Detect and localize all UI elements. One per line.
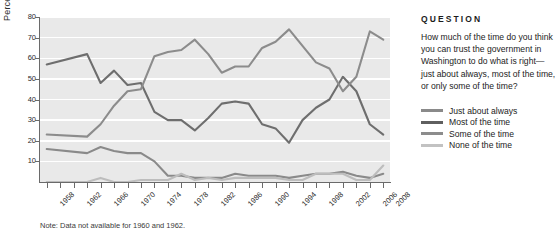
y-tick-label: 80 <box>10 13 36 21</box>
legend-label: None of the time <box>449 140 512 150</box>
x-tick-mark <box>276 183 277 188</box>
x-tick-mark <box>141 183 142 188</box>
x-tick-mark <box>128 183 129 188</box>
x-tick-mark <box>383 183 384 188</box>
y-tick-mark <box>35 100 40 101</box>
legend-label: Just about always <box>449 106 517 116</box>
x-tick-mark <box>114 183 115 188</box>
series-lines <box>40 17 390 182</box>
question-line: you can trust the government in <box>421 43 556 55</box>
chart-note: Note: Data not available for 1960 and 19… <box>40 221 185 230</box>
legend-item[interactable]: None of the time <box>421 140 556 152</box>
x-tick-mark <box>289 183 290 188</box>
x-tick-mark <box>370 183 371 188</box>
question-text: How much of the time do you thinkyou can… <box>421 31 556 92</box>
side-panel: QUESTION How much of the time do you thi… <box>421 14 556 151</box>
x-tick-mark <box>168 183 169 188</box>
y-tick-mark <box>35 17 40 18</box>
y-tick-mark <box>35 38 40 39</box>
question-line: or only some of the time? <box>421 80 556 92</box>
x-tick-mark <box>303 183 304 188</box>
y-tick-mark <box>35 58 40 59</box>
chart-screenshot: Percentage 1020304050607080 Note: Data n… <box>0 0 560 238</box>
series-line <box>47 54 384 143</box>
x-tick-mark <box>60 183 61 188</box>
series-line <box>47 166 384 183</box>
legend-item[interactable]: Most of the time <box>421 117 556 129</box>
legend-label: Most of the time <box>449 117 510 127</box>
y-tick-label: 30 <box>10 116 36 124</box>
question-line: Washington to do what is right— <box>421 55 556 67</box>
x-tick-mark <box>87 183 88 188</box>
legend-swatch-icon <box>421 144 443 147</box>
y-tick-label: 60 <box>10 54 36 62</box>
y-tick-mark <box>35 161 40 162</box>
y-tick-mark <box>35 79 40 80</box>
x-tick-mark <box>47 183 48 188</box>
question-line: just about always, most of the time, <box>421 68 556 80</box>
y-tick-label: 50 <box>10 75 36 83</box>
y-tick-label: 10 <box>10 157 36 165</box>
x-tick-mark <box>208 183 209 188</box>
y-tick-label: 70 <box>10 34 36 42</box>
legend-swatch-icon <box>421 121 443 124</box>
y-tick-mark <box>35 120 40 121</box>
x-tick-mark <box>316 183 317 188</box>
question-line: How much of the time do you think <box>421 31 556 43</box>
x-tick-mark <box>262 183 263 188</box>
x-tick-mark <box>222 183 223 188</box>
x-tick-mark <box>74 183 75 188</box>
legend-item[interactable]: Some of the time <box>421 128 556 140</box>
x-tick-mark <box>356 183 357 188</box>
legend: Just about alwaysMost of the timeSome of… <box>421 105 556 151</box>
x-tick-mark <box>181 183 182 188</box>
x-tick-mark <box>343 183 344 188</box>
legend-item[interactable]: Just about always <box>421 105 556 117</box>
y-tick-mark <box>35 141 40 142</box>
y-tick-label: 40 <box>10 96 36 104</box>
x-tick-mark <box>329 183 330 188</box>
series-line <box>47 29 384 136</box>
y-tick-label: 20 <box>10 137 36 145</box>
x-axis-line <box>39 182 391 183</box>
legend-label: Some of the time <box>449 129 514 139</box>
y-axis-tick-labels: 1020304050607080 <box>8 0 36 238</box>
x-tick-mark <box>249 183 250 188</box>
x-tick-mark <box>235 183 236 188</box>
question-heading: QUESTION <box>421 14 556 24</box>
x-tick-mark <box>101 183 102 188</box>
legend-swatch-icon <box>421 132 443 135</box>
x-tick-mark <box>195 183 196 188</box>
x-tick-mark <box>154 183 155 188</box>
legend-swatch-icon <box>421 109 443 112</box>
